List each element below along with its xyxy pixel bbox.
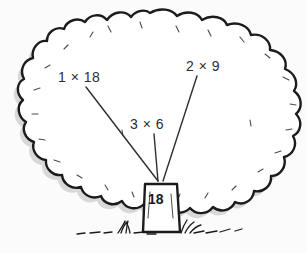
product-label-18: 18 [148,191,164,207]
factor-label-3x6: 3 × 6 [130,116,164,132]
factor-label-2x9: 2 × 9 [186,58,220,74]
factor-tree-figure: 1 × 18 2 × 9 3 × 6 18 [0,0,307,253]
factor-label-1x18: 1 × 18 [58,69,100,85]
